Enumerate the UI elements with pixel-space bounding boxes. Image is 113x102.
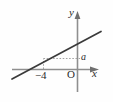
origin-label: O <box>67 69 75 80</box>
math-figure: y x O a −4 <box>0 0 113 102</box>
y-axis-arrow-icon <box>75 11 81 19</box>
y-axis-label: y <box>69 7 74 18</box>
x-axis-label: x <box>92 68 97 79</box>
x-intercept-label: −4 <box>35 70 46 81</box>
coordinate-plane-svg <box>0 0 113 102</box>
plotted-line <box>12 32 101 80</box>
value-a-label: a <box>81 52 86 62</box>
